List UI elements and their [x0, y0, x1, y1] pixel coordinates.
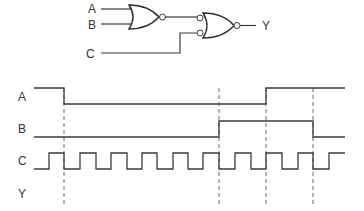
logic-circuit-diagram: A B C Y A B C Y	[0, 0, 364, 211]
signal-label-c: C	[18, 154, 27, 168]
signal-label-y: Y	[18, 187, 26, 201]
gate2-output-bubble	[234, 23, 240, 29]
wire-c	[101, 33, 197, 53]
input-label-c: C	[86, 47, 95, 61]
gate2-input-bubble-2	[197, 30, 203, 36]
waveform-a	[34, 88, 345, 104]
signal-label-a: A	[18, 90, 26, 104]
circuit: A B C Y	[86, 2, 270, 61]
timing-diagram: A B C Y	[18, 88, 345, 207]
signal-label-b: B	[18, 122, 26, 136]
input-label-a: A	[88, 2, 96, 16]
gate2-input-bubble-1	[197, 15, 203, 21]
input-label-b: B	[88, 18, 96, 32]
waveform-b	[34, 121, 345, 137]
gate1-output-bubble	[160, 14, 166, 20]
output-label-y: Y	[262, 19, 270, 33]
nor-gate-1	[129, 5, 159, 29]
nor-gate-2	[203, 13, 234, 38]
waveform-c	[34, 153, 345, 169]
